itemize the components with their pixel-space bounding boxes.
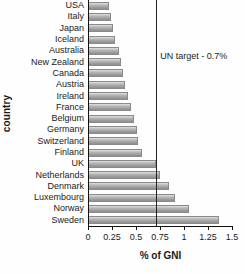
bar-chart: country USAItalyJapanIcelandAustraliaNew…	[0, 0, 245, 274]
x-axis-tick-label: 0.5	[130, 232, 143, 242]
bar	[89, 205, 189, 213]
category-label: Norway	[12, 203, 86, 214]
bar-row	[89, 79, 233, 90]
bar-row	[89, 23, 233, 34]
bar	[89, 92, 128, 100]
bar-row	[89, 124, 233, 135]
bar-row	[89, 136, 233, 147]
x-axis-tick	[112, 226, 113, 230]
bar	[89, 171, 160, 179]
category-label: Finland	[12, 147, 86, 158]
x-axis-tick	[136, 226, 137, 230]
bar	[89, 13, 111, 21]
bar	[89, 47, 119, 55]
bar-row	[89, 181, 233, 192]
bar	[89, 126, 137, 134]
category-axis-labels: USAItalyJapanIcelandAustraliaNew Zealand…	[12, 0, 86, 226]
category-label: Canada	[12, 68, 86, 79]
bar	[89, 216, 219, 224]
bar	[89, 69, 123, 77]
x-axis-tick-label: 0.25	[103, 232, 121, 242]
category-label: Belgium	[12, 113, 86, 124]
x-axis-title: % of GNI	[88, 250, 233, 261]
bar-row	[89, 102, 233, 113]
category-label: Germany	[12, 124, 86, 135]
x-axis-tick-label: 1.5	[226, 232, 239, 242]
x-axis-tick	[160, 226, 161, 230]
bar-row	[89, 113, 233, 124]
category-label: UK	[12, 158, 86, 169]
bar-series	[89, 0, 233, 226]
un-target-annotation-label: UN target - 0.7%	[160, 51, 227, 61]
x-axis-tick	[208, 226, 209, 230]
bar-row	[89, 203, 233, 214]
bar-row	[89, 169, 233, 180]
x-axis-tick	[184, 226, 185, 230]
category-label: Japan	[12, 23, 86, 34]
bar-row	[89, 0, 233, 11]
un-target-reference-line	[156, 0, 157, 226]
category-label: New Zealand	[12, 56, 86, 67]
category-label: Italy	[12, 11, 86, 22]
category-label: Ireland	[12, 90, 86, 101]
x-axis-tick-label: 1.25	[199, 232, 217, 242]
bar	[89, 137, 138, 145]
bar	[89, 2, 109, 10]
x-axis-tick	[88, 226, 89, 230]
category-label: France	[12, 102, 86, 113]
bar	[89, 24, 113, 32]
bar	[89, 115, 134, 123]
category-label: Switzerland	[12, 136, 86, 147]
bar	[89, 103, 131, 111]
bar-row	[89, 34, 233, 45]
x-axis-tick-label: 0	[85, 232, 90, 242]
y-axis-title-text: country	[2, 94, 13, 131]
category-label: Netherlands	[12, 169, 86, 180]
bar	[89, 160, 156, 168]
x-axis-tick-label: 0.75	[151, 232, 169, 242]
bar-row	[89, 147, 233, 158]
category-label: Denmark	[12, 181, 86, 192]
x-axis-tick-label: 1	[181, 232, 186, 242]
category-label: USA	[12, 0, 86, 11]
bar	[89, 194, 175, 202]
category-label: Australia	[12, 45, 86, 56]
bar	[89, 36, 115, 44]
category-label: Luxembourg	[12, 192, 86, 203]
bar	[89, 58, 121, 66]
bar-row	[89, 215, 233, 226]
x-axis-tick	[232, 226, 233, 230]
bar-row	[89, 11, 233, 22]
category-label: Austria	[12, 79, 86, 90]
plot-area	[88, 0, 233, 226]
bar-row	[89, 158, 233, 169]
category-label: Iceland	[12, 34, 86, 45]
category-label: Sweden	[12, 215, 86, 226]
bar	[89, 81, 125, 89]
bar	[89, 149, 142, 157]
bar-row	[89, 192, 233, 203]
bar-row	[89, 90, 233, 101]
bar-row	[89, 68, 233, 79]
